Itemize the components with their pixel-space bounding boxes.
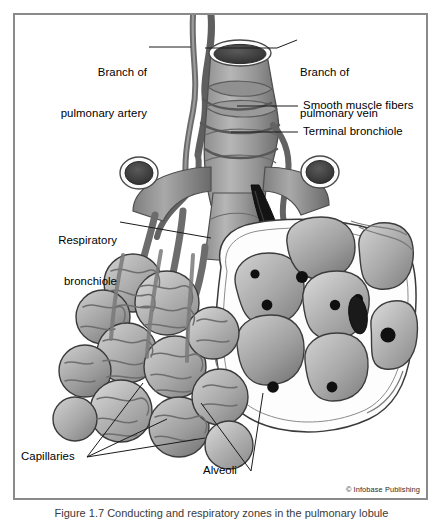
label-artery-line1: Branch of [19,66,147,80]
label-vein-line1: Branch of [300,66,426,80]
figure-page: Branch of pulmonary artery Branch of pul… [0,0,443,525]
label-capillaries: Capillaries [21,450,75,464]
label-respiratory-line2: bronchiole [11,275,117,289]
label-terminal-bronchiole: Terminal bronchiole [303,125,403,139]
leader-respiratory [120,222,211,238]
label-respiratory-line1: Respiratory [11,234,117,248]
figure-caption: Figure 1.7 Conducting and respiratory zo… [0,506,443,525]
label-respiratory-bronchiole: Respiratory bronchiole [11,207,117,316]
label-artery-line2: pulmonary artery [19,107,147,121]
label-smooth-muscle-fibers: Smooth muscle fibers [303,99,414,113]
label-alveoli: Alveoli [203,464,237,478]
copyright-notice: © Infobase Publishing [346,485,420,494]
figure-frame: Branch of pulmonary artery Branch of pul… [13,13,428,500]
label-branch-pulmonary-artery: Branch of pulmonary artery [19,39,147,148]
